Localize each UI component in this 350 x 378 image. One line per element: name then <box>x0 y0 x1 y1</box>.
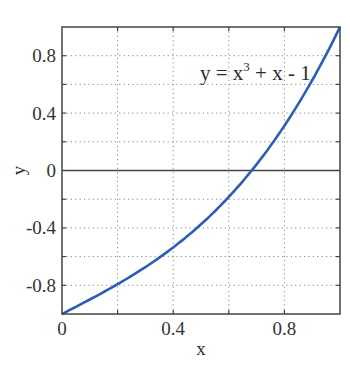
equation-annotation: y = x3 + x - 1 <box>200 59 311 85</box>
equation-lhs: y = x <box>200 61 244 85</box>
x-tick-label: 0.8 <box>273 318 297 339</box>
y-tick-label: 0 <box>47 160 57 181</box>
x-tick-labels: 00.40.8 <box>57 318 296 339</box>
y-axis-label: y <box>8 165 29 175</box>
y-tick-label: 0.4 <box>32 103 56 124</box>
y-tick-label: 0.8 <box>32 45 56 66</box>
chart: 00.40.8 0.80.40-0.4-0.8 x y y = x3 + x -… <box>0 0 350 378</box>
x-axis-label: x <box>196 338 206 359</box>
equation-rhs: + x - 1 <box>250 61 311 85</box>
x-tick-label: 0 <box>57 318 67 339</box>
x-tick-label: 0.4 <box>161 318 185 339</box>
y-tick-label: -0.8 <box>26 275 56 296</box>
y-tick-label: -0.4 <box>26 217 57 238</box>
y-tick-labels: 0.80.40-0.4-0.8 <box>26 45 57 296</box>
